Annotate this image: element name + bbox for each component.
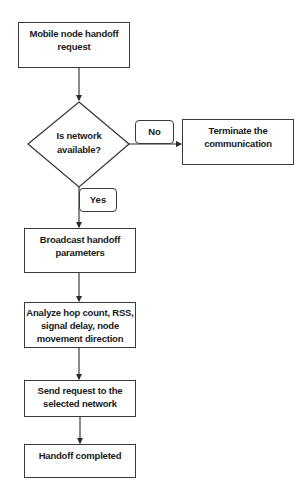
node-text-line: request	[19, 40, 129, 53]
node-handoff-completed: Handoff completed	[24, 444, 136, 478]
node-terminate-communication: Terminate the communication	[182, 119, 294, 165]
node-analyze-metrics: Analyze hop count, RSS, signal delay, no…	[24, 302, 136, 348]
node-text-line: Send request to the	[25, 384, 135, 397]
node-text-line: Broadcast handoff	[25, 233, 135, 246]
edge-label-no: No	[135, 120, 174, 144]
node-text-line: movement direction	[25, 332, 135, 345]
edge-label-yes: Yes	[79, 188, 117, 212]
node-text-line: parameters	[25, 246, 135, 259]
node-text-line: communication	[183, 137, 293, 150]
node-text-line: signal delay, node	[25, 319, 135, 332]
node-text-line: Handoff completed	[25, 449, 135, 462]
node-text-line: Terminate the	[183, 124, 293, 137]
node-text-line: Is network	[40, 129, 118, 143]
node-text-line: available?	[40, 143, 118, 157]
node-send-request: Send request to the selected network	[24, 380, 136, 417]
node-broadcast-handoff-parameters: Broadcast handoff parameters	[24, 228, 136, 273]
node-is-network-available: Is network available?	[40, 129, 118, 157]
node-text-line: Analyze hop count, RSS,	[25, 306, 135, 319]
node-mobile-handoff-request: Mobile node handoff request	[18, 22, 130, 68]
node-text-line: Mobile node handoff	[19, 27, 129, 40]
node-text-line: selected network	[25, 397, 135, 410]
